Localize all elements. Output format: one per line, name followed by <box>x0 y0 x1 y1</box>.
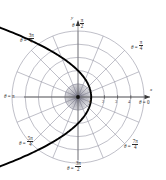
angle-fraction: 5π4 <box>27 136 33 147</box>
theta-pi-4-label: θ = π4 <box>131 40 143 51</box>
theta-equals-text: θ = <box>67 165 75 171</box>
fraction-denominator: 4 <box>27 142 33 147</box>
pole-point <box>76 95 80 99</box>
theta-pi-2-label: θ = π2 <box>72 18 84 29</box>
radial-tick-label: 2 <box>102 100 104 104</box>
fraction-denominator: 4 <box>139 46 143 51</box>
theta-equals-text: θ = <box>19 140 27 146</box>
angle-fraction: 7π4 <box>132 139 138 150</box>
angle-fraction: π4 <box>139 40 143 51</box>
theta-equals-text: θ = <box>131 44 139 50</box>
fraction-denominator: 4 <box>28 39 34 44</box>
angle-value: 0 <box>147 99 150 105</box>
theta-3pi-4-label: θ = 3π4 <box>20 33 35 44</box>
theta-equals-text: θ = <box>4 93 12 99</box>
angle-fraction: 3π4 <box>28 33 34 44</box>
theta-equals-text: θ = <box>124 143 132 149</box>
theta-equals-text: θ = <box>20 37 28 43</box>
theta-7pi-4-label: θ = 7π4 <box>124 139 139 150</box>
fraction-denominator: 2 <box>80 24 84 29</box>
y-axis-label: y <box>71 15 73 20</box>
theta-3pi-2-label: θ = 3π2 <box>67 161 82 172</box>
angle-value: π <box>12 93 15 99</box>
radial-tick-label: 4 <box>128 100 130 104</box>
fraction-denominator: 4 <box>132 145 138 150</box>
angle-fraction: π2 <box>80 18 84 29</box>
fraction-denominator: 2 <box>75 167 81 172</box>
theta-pi-label: θ = π <box>4 94 15 99</box>
angle-fraction: 3π2 <box>75 161 81 172</box>
theta-equals-text: θ = <box>139 99 147 105</box>
theta-equals-text: θ = <box>72 22 80 28</box>
x-axis-label: x <box>150 87 152 92</box>
radial-tick-label: 3 <box>115 100 117 104</box>
theta-0-label: θ = 0 <box>139 100 149 105</box>
radial-tick-label: 1 <box>89 100 91 104</box>
theta-5pi-4-label: θ = 5π4 <box>19 136 34 147</box>
